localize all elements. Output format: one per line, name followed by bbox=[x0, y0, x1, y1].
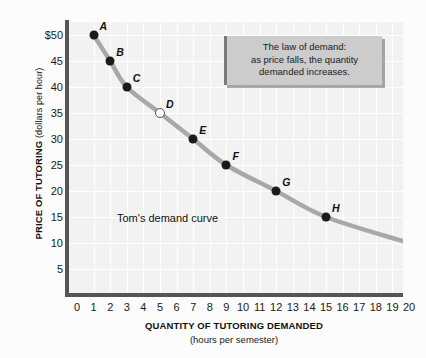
x-axis-line bbox=[65, 293, 403, 297]
x-axis-title: QUANTITY OF TUTORING DEMANDED bbox=[65, 320, 403, 331]
y-axis-title-units: (dollars per hour) bbox=[34, 68, 44, 138]
data-point-e bbox=[189, 135, 198, 144]
demand-curve-chart: ABCDEFGHI $5045403530252015105 012345678… bbox=[0, 0, 426, 358]
x-axis-title-units: (hours per semester) bbox=[65, 334, 403, 345]
data-point-label-h: H bbox=[332, 202, 340, 214]
data-point-g bbox=[272, 187, 281, 196]
data-point-c bbox=[122, 83, 131, 92]
data-point-h bbox=[322, 213, 331, 222]
data-point-label-e: E bbox=[199, 124, 206, 136]
data-point-label-f: F bbox=[232, 150, 238, 162]
callout-line-2: as price falls, the quantity bbox=[231, 54, 378, 67]
data-point-d bbox=[155, 108, 165, 118]
law-of-demand-callout: The law of demand:as price falls, the qu… bbox=[224, 36, 382, 85]
y-axis-tick-labels: $5045403530252015105 bbox=[0, 0, 63, 358]
y-axis-title: PRICE OF TUTORING (dollars per hour) bbox=[33, 34, 44, 274]
data-point-a bbox=[89, 31, 98, 40]
data-point-label-b: B bbox=[116, 46, 124, 58]
callout-line-3: demanded increases. bbox=[231, 66, 378, 79]
data-point-f bbox=[222, 161, 231, 170]
y-axis-line bbox=[65, 20, 69, 297]
data-point-label-d: D bbox=[166, 98, 174, 110]
y-axis-title-main: PRICE OF TUTORING bbox=[33, 141, 44, 240]
callout-line-1: The law of demand: bbox=[231, 41, 378, 54]
data-point-label-c: C bbox=[133, 72, 141, 84]
data-point-label-a: A bbox=[100, 22, 108, 32]
x-tick-label: 20 bbox=[399, 302, 419, 313]
demand-curve-label: Tom's demand curve bbox=[117, 212, 218, 224]
data-point-b bbox=[106, 57, 115, 66]
data-point-label-g: G bbox=[282, 176, 290, 188]
